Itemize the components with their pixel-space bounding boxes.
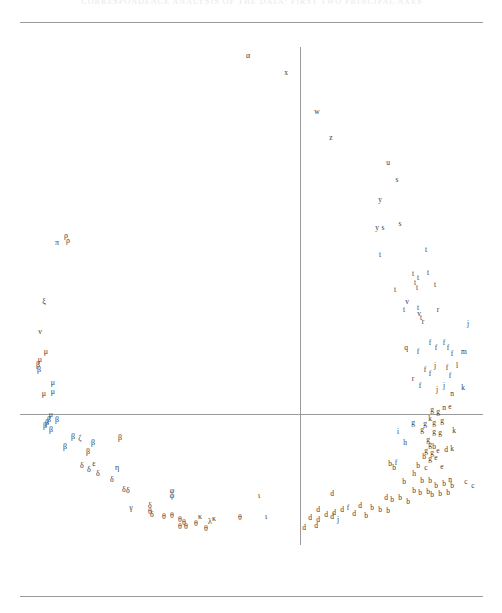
- data-point-label: d: [302, 524, 306, 532]
- data-point-label: θ: [162, 513, 166, 521]
- data-point-label: t: [416, 284, 418, 292]
- data-point-label: ε: [92, 460, 95, 468]
- data-point-label: b: [402, 478, 406, 486]
- data-point-label: δ: [110, 476, 114, 484]
- data-point-label: θ: [184, 523, 188, 531]
- data-point-label: b: [428, 477, 432, 485]
- data-point-label: μ: [42, 390, 46, 398]
- data-point-label: b: [416, 462, 420, 470]
- data-point-label: j: [434, 362, 436, 370]
- data-point-label: ζ: [78, 435, 81, 443]
- data-point-label: l: [456, 362, 458, 370]
- data-point-label: κ: [198, 513, 202, 521]
- data-point-label: κ: [212, 515, 216, 523]
- data-point-label: θ: [204, 525, 208, 533]
- data-point-label: β: [43, 422, 47, 430]
- data-point-label: b: [364, 512, 368, 520]
- data-point-label: j: [467, 320, 469, 328]
- data-point-label: b: [438, 490, 442, 498]
- data-point-label: t: [425, 246, 427, 254]
- scatter-plot-area: απρρξνμμββμμμμββββββζββββδδεδηδδδφφγδθδθ…: [20, 30, 483, 570]
- data-point-label: β: [55, 416, 59, 424]
- data-point-label: β: [118, 434, 122, 442]
- data-point-label: f: [429, 370, 432, 378]
- data-point-label: δ: [150, 511, 154, 519]
- data-point-label: β: [37, 366, 41, 374]
- data-point-label: f: [447, 344, 450, 352]
- data-point-label: g: [428, 455, 432, 463]
- data-point-label: h: [403, 439, 407, 447]
- data-point-label: θ: [178, 523, 182, 531]
- data-point-label: δ: [87, 466, 91, 474]
- data-point-label: b: [412, 487, 416, 495]
- data-point-label: t: [434, 281, 436, 289]
- bottom-horizontal-rule: [20, 596, 483, 597]
- data-point-label: t: [403, 306, 405, 314]
- data-point-label: f: [443, 339, 446, 347]
- data-point-label: j: [337, 516, 339, 524]
- data-point-label: b: [418, 489, 422, 497]
- data-point-label: f: [449, 372, 452, 380]
- data-point-label: x: [284, 69, 288, 77]
- data-point-label: α: [246, 52, 250, 60]
- data-point-label: t: [417, 274, 419, 282]
- data-point-label: γ: [129, 504, 133, 512]
- data-point-label: d: [340, 506, 344, 514]
- data-point-label: b: [420, 477, 424, 485]
- data-point-label: λ: [208, 518, 212, 526]
- data-point-label: b: [430, 491, 434, 499]
- data-point-label: g: [420, 426, 424, 434]
- data-point-label: k: [461, 384, 465, 392]
- data-point-label: r: [437, 306, 440, 314]
- data-point-label: μ: [51, 388, 55, 396]
- data-point-label: g: [430, 406, 434, 414]
- data-point-label: d: [308, 514, 312, 522]
- data-point-label: c: [471, 482, 474, 490]
- data-point-label: d: [324, 511, 328, 519]
- data-point-label: e: [448, 403, 451, 411]
- data-point-label: q: [404, 344, 408, 352]
- data-point-label: b: [442, 480, 446, 488]
- data-point-label: e: [440, 463, 443, 471]
- data-point-label: π: [55, 239, 59, 247]
- data-point-label: β: [86, 448, 90, 456]
- data-point-label: e: [434, 454, 437, 462]
- data-point-label: f: [435, 344, 438, 352]
- data-point-label: b: [450, 482, 454, 490]
- data-point-label: μ: [51, 379, 55, 387]
- data-point-label: k: [450, 445, 454, 453]
- data-point-label: β: [63, 443, 67, 451]
- data-point-label: h: [412, 470, 416, 478]
- data-point-label: s: [382, 224, 385, 232]
- data-point-label: ν: [38, 328, 42, 336]
- data-point-label: m: [461, 348, 467, 356]
- top-horizontal-rule: [20, 22, 483, 23]
- data-point-label: j: [436, 386, 438, 394]
- data-point-label: t: [427, 269, 429, 277]
- data-point-label: y: [375, 224, 379, 232]
- data-point-label: n: [442, 404, 446, 412]
- data-point-label: f: [429, 339, 432, 347]
- data-point-label: k: [452, 427, 456, 435]
- data-point-label: y: [378, 196, 382, 204]
- data-point-label: t: [379, 251, 381, 259]
- data-point-label: μ: [44, 348, 48, 356]
- data-point-label: b: [446, 489, 450, 497]
- data-point-label: f: [424, 366, 427, 374]
- data-point-label: g: [438, 429, 442, 437]
- data-point-label: d: [314, 522, 318, 530]
- figure-header-text: CORRESPONDENCE ANALYSIS OF THE DATA: FIR…: [22, 0, 482, 6]
- data-point-label: b: [386, 507, 390, 515]
- data-point-label: b: [406, 498, 410, 506]
- data-point-label: z: [329, 134, 332, 142]
- data-point-label: r: [412, 375, 415, 383]
- data-point-label: c: [424, 464, 427, 472]
- data-point-label: β: [91, 439, 95, 447]
- data-point-label: t: [412, 270, 414, 278]
- data-point-label: d: [330, 513, 334, 521]
- data-point-label: b: [370, 504, 374, 512]
- data-point-label: s: [396, 176, 399, 184]
- data-point-label: v: [405, 298, 409, 306]
- data-point-label: j: [443, 382, 445, 390]
- data-point-label: ι: [265, 513, 267, 521]
